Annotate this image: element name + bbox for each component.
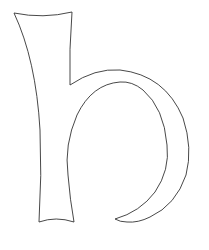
letter-h-outline-path: [14, 12, 189, 222]
letter-h-outline-svg: [0, 0, 209, 250]
letter-h-outline-figure: h: [0, 0, 209, 250]
